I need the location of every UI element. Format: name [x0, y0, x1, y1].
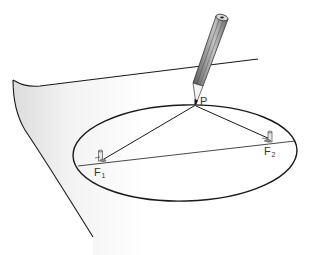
svg-text:1: 1 [102, 172, 106, 179]
ellipse-diagram: P F 1 F 2 [0, 0, 310, 255]
svg-text:F: F [264, 145, 271, 157]
svg-text:F: F [94, 166, 101, 178]
paper-sheet [13, 59, 310, 255]
svg-text:2: 2 [272, 151, 276, 158]
label-p: P [200, 95, 207, 107]
